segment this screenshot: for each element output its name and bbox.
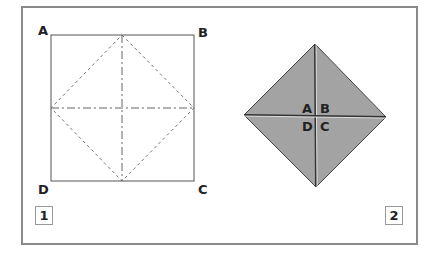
flap-label-a: A xyxy=(302,101,312,116)
flap-label-b: B xyxy=(320,101,330,116)
figure-1-square xyxy=(51,35,194,181)
flap-label-c: C xyxy=(320,119,330,134)
figure-number-1: 1 xyxy=(35,206,53,225)
corner-label-b: B xyxy=(198,25,208,40)
corner-label-a: A xyxy=(38,23,48,38)
figure-number-2: 2 xyxy=(385,206,403,225)
figure-2-diamond xyxy=(244,44,386,187)
diagram-canvas: A B D C A B D C xyxy=(0,0,438,256)
flap-label-d: D xyxy=(302,119,313,134)
corner-label-d: D xyxy=(38,182,49,197)
corner-label-c: C xyxy=(198,182,208,197)
